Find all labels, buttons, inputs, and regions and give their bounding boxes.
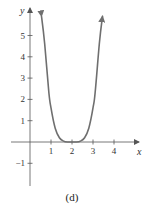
curve-line (42, 16, 103, 142)
chart: 1234 −112345 x y (d) (0, 0, 149, 206)
y-tick-label: 2 (21, 94, 26, 104)
x-axis-label: x (136, 146, 142, 157)
y-axis-label: y (19, 5, 25, 16)
y-tick-label: 4 (21, 52, 26, 62)
chart-caption: (d) (66, 191, 79, 204)
x-tick-label: 1 (49, 146, 54, 156)
x-tick-label: 4 (112, 146, 117, 156)
y-tick-label: 1 (21, 116, 26, 126)
x-tick-label: 2 (70, 146, 75, 156)
x-tick-label: 3 (91, 146, 96, 156)
y-tick-label: 5 (21, 31, 26, 41)
axes (11, 8, 139, 186)
y-tick-label: −1 (15, 158, 25, 168)
y-tick-label: 3 (21, 73, 26, 83)
